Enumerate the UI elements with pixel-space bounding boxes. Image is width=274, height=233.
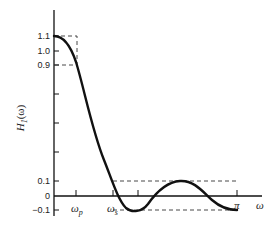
tolerance-lines xyxy=(54,36,237,210)
x-tick-label-omega-p: ωp xyxy=(71,202,83,217)
y-tick-label-0: 0 xyxy=(45,191,50,201)
y-axis-label: H1(ω) xyxy=(14,104,29,132)
y-tick-label-0.1: 0.1 xyxy=(37,176,50,186)
y-tick-label-1.1: 1.1 xyxy=(37,31,50,41)
y-ticks xyxy=(54,36,59,210)
frequency-response-chart: 1.1 1.0 0.9 0.1 0 −0.1 H1(ω) ωp ωs π ω xyxy=(0,0,274,233)
y-tick-label-neg0.1: −0.1 xyxy=(32,205,50,215)
x-axis-label: ω xyxy=(256,199,264,211)
x-tick-label-omega-s: ωs xyxy=(107,202,118,217)
svg-text:H1(ω): H1(ω) xyxy=(14,104,29,132)
y-tick-label-0.9: 0.9 xyxy=(37,60,50,70)
response-curve xyxy=(54,36,237,211)
y-tick-label-1.0: 1.0 xyxy=(37,46,50,56)
